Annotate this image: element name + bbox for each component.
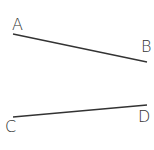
point-label-a: A	[12, 17, 23, 33]
point-label-d: D	[138, 109, 150, 125]
segment-cd	[13, 105, 147, 117]
point-label-b: B	[141, 39, 151, 55]
segment-ab	[13, 34, 147, 62]
point-label-c: C	[5, 119, 16, 135]
diagram-canvas	[0, 0, 154, 150]
